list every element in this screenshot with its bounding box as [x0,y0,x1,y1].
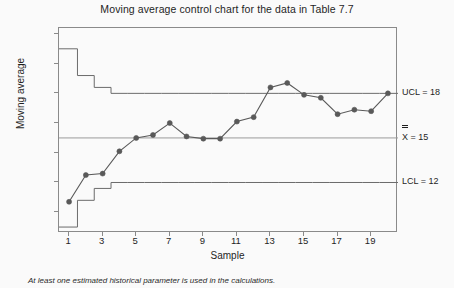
x-tick-label: 17 [322,235,352,246]
chart-title: Moving average control chart for the dat… [0,3,454,15]
footnote-text: At least one estimated historical parame… [28,276,275,285]
data-point [184,134,189,139]
x-axis-title: Sample [58,250,397,261]
plot-frame [58,27,397,232]
x-tick-label: 9 [187,235,217,246]
plot-area [59,28,396,231]
data-point [285,80,290,85]
x-tick-label: 15 [288,235,318,246]
data-point [83,173,88,178]
data-point [117,149,122,154]
chart-plot-svg [59,28,398,233]
data-point [251,115,256,120]
lcl-step-line [59,182,398,227]
ucl-step-line [59,49,398,94]
data-point [100,171,105,176]
chart-canvas: Moving average control chart for the dat… [0,0,454,288]
data-point [218,136,223,141]
lcl-label: LCL = 12 [402,176,438,186]
data-point [268,85,273,90]
ucl-label: UCL = 18 [402,87,440,97]
x-tick-label: 13 [254,235,284,246]
moving-average-line [69,83,388,202]
data-point [201,136,206,141]
x-tick-label: 5 [120,235,150,246]
data-point [369,109,374,114]
data-point [352,107,357,112]
x-tick-label: 7 [154,235,184,246]
x-tick-label: 1 [53,235,83,246]
y-axis-title: Moving average [15,34,26,154]
data-point [167,121,172,126]
data-point [67,199,72,204]
x-tick-label: 3 [87,235,117,246]
center-line-label: X = 15 [402,132,428,142]
data-point [385,91,390,96]
data-point [335,112,340,117]
data-point [150,132,155,137]
data-point [318,95,323,100]
data-point [234,119,239,124]
moving-average-markers [67,80,391,204]
x-tick-label: 19 [355,235,385,246]
data-point [302,92,307,97]
x-tick-label: 11 [221,235,251,246]
data-point [134,135,139,140]
